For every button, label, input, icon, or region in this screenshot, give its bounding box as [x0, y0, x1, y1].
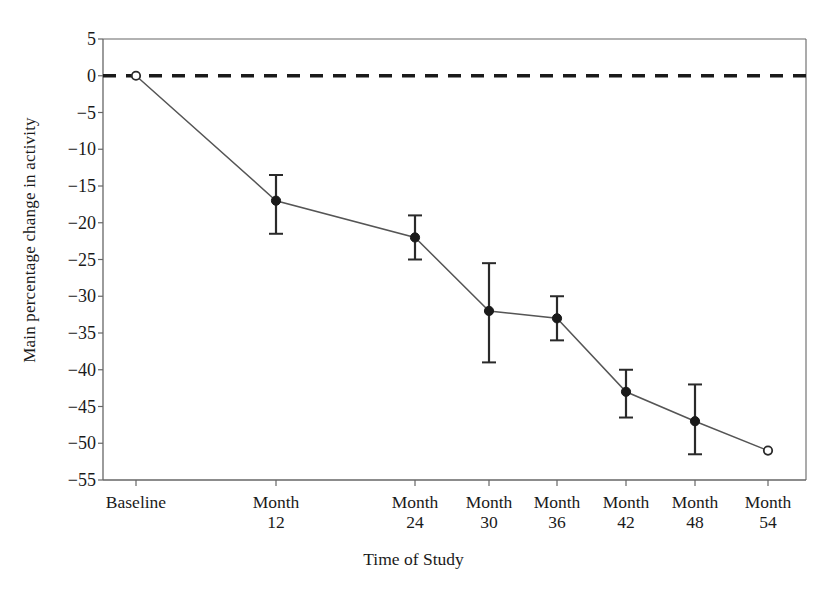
y-tick-label: −40: [44, 361, 96, 379]
data-point-marker[interactable]: [764, 446, 772, 454]
data-point-marker[interactable]: [410, 233, 419, 242]
data-point-marker[interactable]: [271, 196, 280, 205]
x-tick-label-line1: Month: [723, 492, 813, 512]
x-tick-label: Month12: [231, 492, 321, 532]
y-tick-label: −45: [44, 398, 96, 416]
y-tick-label: −20: [44, 214, 96, 232]
data-point-marker[interactable]: [621, 387, 630, 396]
y-tick-label: 5: [44, 30, 96, 48]
y-tick-label: −25: [44, 251, 96, 269]
chart-figure: Main percentage change in activity Time …: [0, 0, 827, 595]
data-point-marker[interactable]: [690, 417, 699, 426]
x-tick-label-line1: Baseline: [91, 492, 181, 512]
x-tick-label: Month54: [723, 492, 813, 532]
y-tick-label: −30: [44, 287, 96, 305]
y-tick-label: −5: [44, 104, 96, 122]
y-tick-label: −10: [44, 140, 96, 158]
y-tick-label: −15: [44, 177, 96, 195]
x-tick-label-line2: 54: [723, 512, 813, 532]
data-point-marker[interactable]: [552, 314, 561, 323]
x-tick-label: Baseline: [91, 492, 181, 512]
y-tick-label: −35: [44, 324, 96, 342]
data-point-marker[interactable]: [484, 306, 493, 315]
data-series-line: [136, 76, 768, 451]
x-axis-label: Time of Study: [0, 549, 827, 570]
x-tick-label-line2: 12: [231, 512, 321, 532]
data-point-marker[interactable]: [132, 72, 140, 80]
y-tick-label: −55: [44, 471, 96, 489]
y-tick-label: −50: [44, 434, 96, 452]
x-tick-label-line1: Month: [231, 492, 321, 512]
y-tick-label: 0: [44, 67, 96, 85]
